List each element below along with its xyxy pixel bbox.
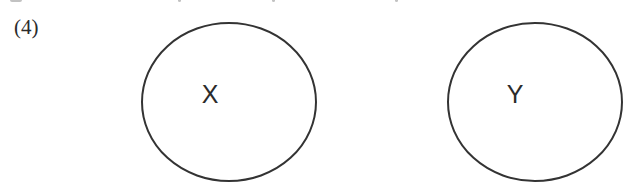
set-y-label: Y — [507, 80, 524, 108]
set-x-label: X — [202, 80, 219, 108]
set-y: Y — [448, 23, 622, 181]
set-x-circle — [142, 23, 316, 181]
set-y-circle — [448, 23, 622, 181]
venn-diagram: X Y — [0, 0, 632, 194]
set-x: X — [142, 23, 316, 181]
